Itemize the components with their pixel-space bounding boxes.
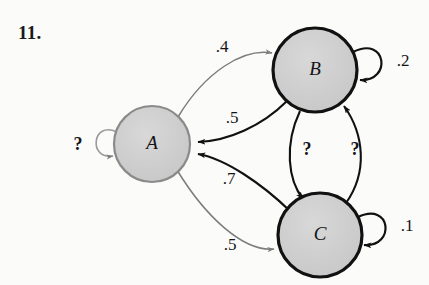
edge-c-to-a (198, 154, 290, 211)
node-c-label: C (314, 223, 327, 244)
node-b-label: B (309, 58, 321, 79)
node-a-label: A (144, 132, 158, 153)
edge-label-a-self-loop: ? (74, 134, 83, 154)
node-a[interactable]: A (114, 106, 190, 182)
edge-label-c-self-loop: .1 (401, 216, 414, 235)
state-transition-diagram: A B C .4 .5 .7 .5 ? ? ? .2 .1 (0, 0, 429, 285)
edge-label-b-to-a: .5 (226, 108, 239, 127)
edge-label-a-to-b: .4 (216, 37, 229, 56)
edge-b-to-c (290, 111, 303, 199)
edge-c-to-a-path (198, 154, 290, 211)
edge-label-b-to-c: ? (303, 139, 312, 159)
edge-label-b-self-loop: .2 (397, 51, 410, 70)
edge-b-to-c-path (290, 111, 303, 199)
node-c[interactable]: C (278, 193, 362, 277)
edge-label-c-to-a: .7 (223, 169, 236, 188)
edge-b-to-a (198, 101, 287, 142)
edge-label-a-to-c: .5 (224, 235, 237, 254)
edge-label-c-to-b: ? (351, 139, 360, 159)
edge-b-to-a-path (198, 101, 287, 142)
node-b[interactable]: B (273, 28, 357, 112)
diagram-page: 11. (0, 0, 429, 285)
